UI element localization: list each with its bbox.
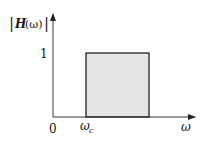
abs-bar-left: | (9, 14, 14, 32)
y-axis-label: | H (ω) | (9, 14, 49, 32)
x-axis-label: ω (181, 120, 191, 134)
y-axis-arg: (ω) (25, 18, 43, 31)
level-one-label: 1 (40, 47, 48, 61)
abs-bar-right: | (44, 14, 49, 32)
passband-region (86, 53, 149, 117)
cutoff-label: ω c (80, 119, 94, 135)
origin-label: 0 (49, 122, 57, 136)
filter-response-diagram: | H (ω) | 1 0 ω c ω (0, 0, 207, 142)
cutoff-subscript: c (89, 126, 94, 135)
